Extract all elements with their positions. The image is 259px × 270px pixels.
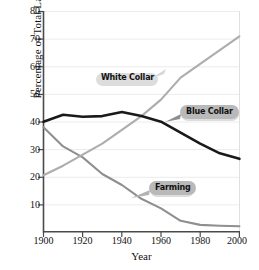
x-axis-title: Year [43, 250, 240, 262]
x-tick-label-2000: 2000 [217, 235, 257, 246]
x-tick-label-1920: 1920 [63, 235, 103, 246]
callout-tail-blue-collar [165, 114, 181, 122]
x-tick-label-1980: 1980 [180, 235, 220, 246]
y-tick-label-20: 20 [16, 172, 40, 182]
x-tick-label-1960: 1960 [141, 235, 181, 246]
series-label-white-collar: White Collar [95, 71, 160, 85]
x-tick-label-1900: 1900 [24, 235, 64, 246]
y-axis-title: Percentage of Total Labor Force [31, 0, 43, 121]
series-line-farming [44, 127, 240, 226]
y-tick-label-30: 30 [16, 145, 40, 155]
y-tick-label-10: 10 [16, 200, 40, 210]
x-tick-label-1940: 1940 [102, 235, 142, 246]
series-label-blue-collar: Blue Collar [180, 105, 239, 119]
labor-force-line-chart: 80 70 60 50 40 30 20 10 1900 1920 1940 1… [0, 0, 259, 270]
series-label-farming: Farming [149, 181, 196, 195]
